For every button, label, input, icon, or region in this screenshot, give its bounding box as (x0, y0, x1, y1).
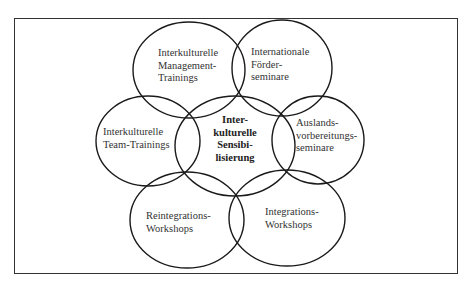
node-label-middle-left: Interkulturelle Team-Trainings (103, 126, 170, 151)
node-label-line: vorbereitungs- (296, 130, 357, 143)
node-label-line: Reintegrations- (146, 210, 211, 223)
node-label-line: Team-Trainings (103, 139, 170, 152)
node-label-line: Trainings (158, 72, 218, 85)
node-label-line: Interkulturelle (158, 47, 218, 60)
node-label-line: Förder- (251, 59, 309, 72)
node-label-line: Management- (158, 60, 218, 73)
node-label-line: Internationale (251, 46, 309, 59)
node-label-line: seminare (296, 142, 357, 155)
node-label-middle-right: Auslands- vorbereitungs- seminare (296, 117, 357, 155)
node-label-bottom-left: Reintegrations- Workshops (146, 210, 211, 235)
center-label: Inter- kulturelle Sensibi- lisierung (205, 114, 265, 164)
center-label-line: lisierung (205, 152, 265, 165)
node-label-line: Workshops (265, 219, 319, 232)
node-label-bottom-right: Integrations- Workshops (265, 206, 319, 231)
node-label-top-left: Interkulturelle Management- Trainings (158, 47, 218, 85)
node-label-line: Workshops (146, 223, 211, 236)
node-label-line: Auslands- (296, 117, 357, 130)
center-label-line: Sensibi- (205, 139, 265, 152)
node-label-line: Interkulturelle (103, 126, 170, 139)
node-label-top-right: Internationale Förder- seminare (251, 46, 309, 84)
center-label-line: Inter- (205, 114, 265, 127)
node-label-line: Integrations- (265, 206, 319, 219)
center-label-line: kulturelle (205, 127, 265, 140)
node-label-line: seminare (251, 71, 309, 84)
